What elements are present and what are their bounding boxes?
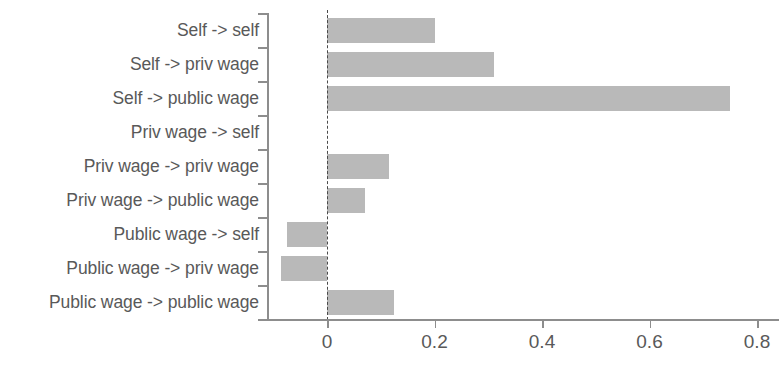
y-axis-tick <box>258 319 267 321</box>
x-axis-tick <box>542 320 544 328</box>
zero-reference-line <box>327 10 328 320</box>
x-axis-tick-label: 0 <box>322 331 333 353</box>
bar <box>327 188 365 213</box>
bar <box>327 18 435 43</box>
x-axis-tick <box>650 320 652 328</box>
x-axis-tick-label: 0.4 <box>529 331 555 353</box>
bar <box>327 154 389 179</box>
bar-chart: Self -> selfSelf -> priv wageSelf -> pub… <box>0 0 779 370</box>
x-axis-tick <box>435 320 437 328</box>
bar <box>327 52 494 77</box>
x-axis-line <box>267 319 779 321</box>
plot-area <box>0 13 779 319</box>
bar <box>281 256 327 281</box>
x-axis-tick <box>757 320 759 328</box>
bar <box>327 290 394 315</box>
x-axis-tick-label: 0.2 <box>421 331 447 353</box>
x-axis-tick <box>327 320 329 328</box>
x-axis-tick-label: 0.8 <box>744 331 770 353</box>
bar <box>287 222 327 247</box>
bar <box>327 86 730 111</box>
x-axis-tick-label: 0.6 <box>636 331 662 353</box>
